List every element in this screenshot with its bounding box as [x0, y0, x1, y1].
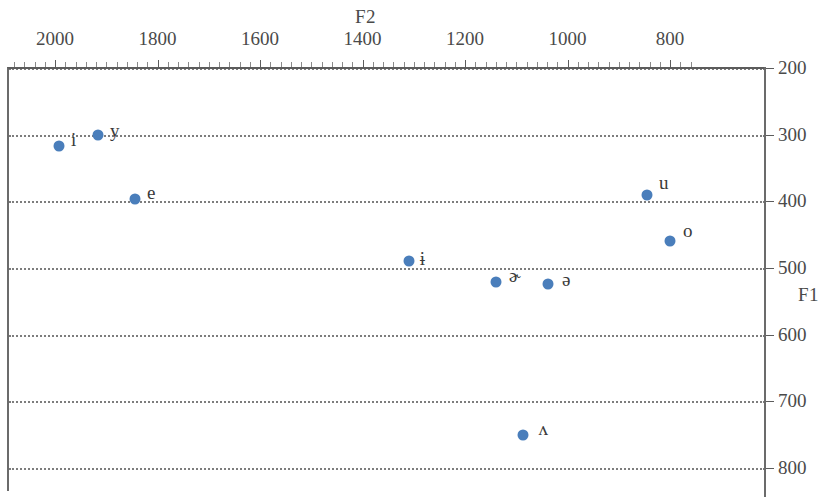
- y-axis-title: F1: [798, 284, 819, 306]
- x-axis-tick-label: 1000: [549, 28, 587, 50]
- x-axis-tick-label: 2000: [36, 28, 74, 50]
- x-axis-title: F2: [355, 6, 376, 28]
- y-axis-tick-label: 700: [778, 390, 807, 412]
- plot-area: [7, 67, 765, 491]
- data-point[interactable]: [129, 194, 140, 205]
- right-axis-line: [764, 67, 766, 497]
- data-point[interactable]: [665, 236, 676, 247]
- y-axis-tick-label: 300: [778, 124, 807, 146]
- y-axis-tick-label: 400: [778, 190, 807, 212]
- data-point[interactable]: [54, 141, 65, 152]
- data-point[interactable]: [641, 189, 652, 200]
- x-axis-tick-label: 1800: [139, 28, 177, 50]
- y-axis-tick-label: 600: [778, 324, 807, 346]
- y-axis-tick-label: 500: [778, 257, 807, 279]
- data-point-label: i: [71, 129, 76, 151]
- data-point-label: ɨ: [420, 248, 425, 270]
- data-point-label: y: [110, 120, 120, 142]
- data-point-label: ə: [562, 269, 570, 291]
- y-axis-tick-label: 200: [778, 57, 807, 79]
- x-axis-tick-label: 1600: [241, 28, 279, 50]
- data-point[interactable]: [403, 256, 414, 267]
- data-point-label: e: [147, 182, 155, 204]
- vowel-formant-chart: F2 F1 200018001600140012001000800 200300…: [0, 0, 835, 497]
- data-point-label: ʌ: [538, 418, 548, 440]
- data-point-label: u: [659, 172, 669, 194]
- data-point-label: o: [683, 220, 693, 242]
- data-point-label: ɚ: [509, 265, 521, 287]
- data-point[interactable]: [518, 429, 529, 440]
- x-axis-tick-label: 800: [656, 28, 685, 50]
- data-point[interactable]: [490, 277, 501, 288]
- y-axis-tick-label: 800: [778, 457, 807, 479]
- x-axis-tick-label: 1200: [446, 28, 484, 50]
- data-point[interactable]: [93, 129, 104, 140]
- x-axis-tick-label: 1400: [344, 28, 382, 50]
- data-point[interactable]: [543, 279, 554, 290]
